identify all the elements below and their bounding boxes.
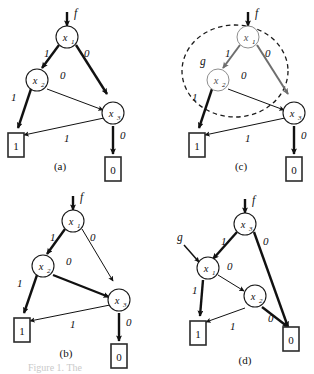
panel-b-edgelabel-x3-term1: 1 bbox=[70, 318, 76, 330]
panel-d-edgelabel-x1-term1: 1 bbox=[192, 284, 198, 296]
panel-a-terminal-zero-label: 0 bbox=[110, 164, 116, 176]
panel-b-node-x1-sub: 1 bbox=[77, 222, 81, 230]
panel-c-edgelabel-x3-term0: 0 bbox=[301, 129, 307, 141]
panel-a-edgelabel-x3-term1: 1 bbox=[64, 132, 70, 144]
panel-a-edgelabel-x2-term1: 1 bbox=[11, 91, 17, 103]
panel-d-node-x3-sub: 3 bbox=[248, 225, 253, 233]
cropped-figure-caption-text: Figure 1. The bbox=[0, 362, 314, 374]
panel-c-caption: (c) bbox=[235, 160, 248, 173]
panel-a-edgelabel-x3-term0: 0 bbox=[120, 129, 126, 141]
panel-b-edgelabel-x2-term1: 1 bbox=[17, 277, 23, 289]
panel-b-node-x3-label: x bbox=[114, 295, 120, 306]
panel-a-caption: (a) bbox=[54, 160, 67, 173]
panel-d-terminal-zero-label: 0 bbox=[288, 334, 294, 346]
panel-c-edgelabel-x1-x2: 1 bbox=[225, 47, 231, 59]
panel-d-edgelabel-x1-x2: 0 bbox=[227, 260, 233, 272]
bdd-figure-canvas: f x 1 x 2 x 3 1 0 0 1 1 0 1 0 (a) f bbox=[0, 0, 314, 374]
panel-b-edgelabel-x1-x3: 0 bbox=[90, 231, 96, 243]
panel-a-node-x1-sub: 1 bbox=[71, 38, 75, 46]
panel-a-edgelabel-x2-x3: 0 bbox=[60, 69, 66, 81]
panel-c-node-x3-label: x bbox=[289, 108, 295, 119]
cropped-figure-caption: Figure 1. The bbox=[0, 362, 314, 374]
panel-b-node-x3-sub: 3 bbox=[122, 301, 127, 309]
panel-c-group-label: g bbox=[200, 55, 206, 68]
panel-d-edgelabel-x3-term0: 0 bbox=[263, 235, 269, 247]
panel-d-edgelabel-x3-x1: 1 bbox=[221, 235, 227, 247]
panel-d-terminal-one-label: 1 bbox=[195, 328, 201, 340]
panel-b-node-x1-label: x bbox=[68, 216, 74, 227]
panel-b-node-x2-sub: 2 bbox=[47, 267, 51, 275]
panel-d-edgelabel-x2-term1: 1 bbox=[230, 320, 236, 332]
panel-a-node-x3-label: x bbox=[108, 108, 114, 119]
panel-b-edgelabel-x3-term0: 0 bbox=[126, 316, 132, 328]
panel-b-edgelabel-x1-x2: 1 bbox=[50, 231, 56, 243]
panel-b-node-x2-label: x bbox=[38, 261, 44, 272]
panel-c-node-x1-label: x bbox=[243, 32, 249, 43]
panel-a-node-x3-sub: 3 bbox=[116, 114, 121, 122]
panel-c-terminal-zero-label: 0 bbox=[291, 164, 297, 176]
panel-b-terminal-one-label: 1 bbox=[19, 325, 25, 337]
panel-a-node-x2-label: x bbox=[32, 75, 38, 86]
panel-c-node-x2-label: x bbox=[213, 75, 219, 86]
panel-a-node-x2-sub: 2 bbox=[41, 81, 45, 89]
panel-d-node-x3-label: x bbox=[240, 219, 246, 230]
panel-c-terminal-one-label: 1 bbox=[194, 140, 200, 152]
panel-b-edgelabel-x2-x3: 0 bbox=[66, 255, 72, 267]
panel-d-node-x2-sub: 2 bbox=[259, 297, 263, 305]
panel-d-node-x1-sub: 1 bbox=[212, 269, 216, 277]
panel-c-edgelabel-x1-x3: 0 bbox=[265, 47, 271, 59]
figure-root: f x 1 x 2 x 3 1 0 0 1 1 0 1 0 (a) f bbox=[0, 0, 314, 374]
panel-d-node-x1-label: x bbox=[203, 263, 209, 274]
panel-a-node-x1-label: x bbox=[62, 32, 68, 43]
panel-d-node-x2-label: x bbox=[250, 291, 256, 302]
panel-a-terminal-one-label: 1 bbox=[13, 140, 19, 152]
panel-c-node-x3-sub: 3 bbox=[297, 114, 302, 122]
panel-c-edgelabel-x2-term1: 1 bbox=[192, 91, 198, 103]
panel-b-caption: (b) bbox=[60, 347, 73, 360]
panel-c-node-x2-sub: 2 bbox=[222, 81, 226, 89]
panel-a-edgelabel-x1-x2: 1 bbox=[44, 47, 50, 59]
panel-d-edgelabel-x2-term0: 0 bbox=[268, 312, 274, 324]
panel-c-node-x1-sub: 1 bbox=[252, 38, 256, 46]
panel-c-edgelabel-x3-term1: 1 bbox=[245, 132, 251, 144]
panel-c-edgelabel-x2-x3: 0 bbox=[241, 69, 247, 81]
panel-a-edgelabel-x1-x3: 0 bbox=[84, 47, 90, 59]
panel-d-g-label: g bbox=[177, 231, 183, 244]
